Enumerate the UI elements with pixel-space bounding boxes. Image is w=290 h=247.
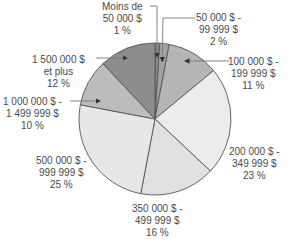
label-200k-350k: 200 000 $ - 349 999 $ 23 %	[229, 146, 280, 182]
label-350k-500k: 350 000 $ - 499 999 $ 16 %	[132, 203, 183, 239]
label-1-5m-plus: 1 500 000 $ et plus 12 %	[32, 54, 85, 90]
label-100k-200k: 100 000 $ - 199 999 $ 11 %	[228, 56, 279, 92]
label-under-50k: Moins de 50 000 $ 1 %	[102, 1, 143, 37]
pie-slice	[79, 105, 155, 194]
label-1m-1-5m: 1 000 000 $ - 1 499 999 $ 10 %	[3, 96, 62, 132]
label-50k-100k: 50 000 $ - 99 999 $ 2 %	[196, 12, 241, 48]
label-500k-1m: 500 000 $ - 999 999 $ 25 %	[36, 155, 87, 191]
pie-chart-figure: Moins de 50 000 $ 1 % 50 000 $ - 99 999 …	[0, 0, 290, 247]
